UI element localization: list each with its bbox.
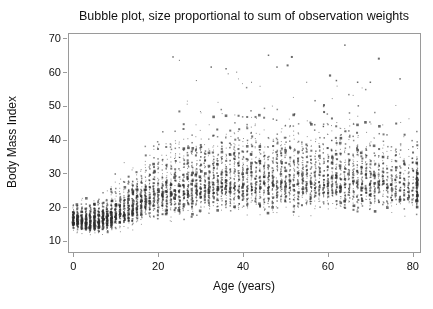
chart-title: Bubble plot, size proportional to sum of… — [66, 9, 422, 23]
y-tick-label: 50 — [31, 99, 61, 112]
y-tick-label: 70 — [31, 32, 61, 45]
x-tick-label: 20 — [141, 260, 175, 273]
y-axis-label: Body Mass Index — [5, 72, 23, 212]
x-tick-label: 0 — [56, 260, 90, 273]
x-tick-label: 60 — [311, 260, 345, 273]
y-tick-label: 60 — [31, 66, 61, 79]
y-tick-label: 30 — [31, 167, 61, 180]
y-tick-label: 40 — [31, 133, 61, 146]
x-tick-label: 80 — [396, 260, 430, 273]
x-axis-label: Age (years) — [164, 279, 324, 293]
y-tick-label: 20 — [31, 201, 61, 214]
bubble-chart-figure: Bubble plot, size proportional to sum of… — [0, 0, 433, 309]
x-tick-label: 40 — [226, 260, 260, 273]
y-tick-label: 10 — [31, 234, 61, 247]
